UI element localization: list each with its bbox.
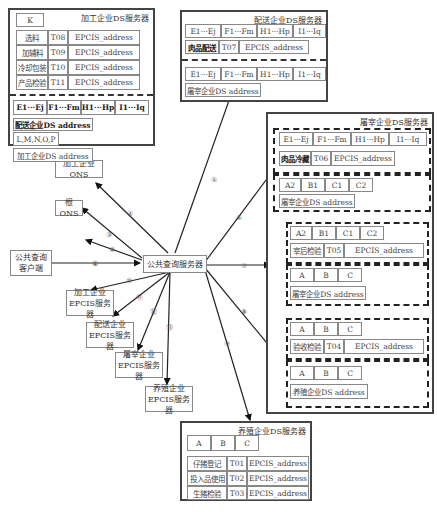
range-cell: F1···Fm	[221, 67, 257, 81]
sub-key-cell: L,M,N,O,P	[13, 132, 59, 146]
range-cell: H1···Hp	[81, 100, 115, 115]
key-cell: C1	[336, 226, 360, 240]
processing-ds-server[interactable]: 加工企业DS服务器 K 选料 T08 EPCIS_address 加辅料 T09…	[8, 8, 155, 146]
stage-code: T02	[227, 471, 247, 486]
farming-ds-address: 养殖企业DS address	[290, 384, 368, 399]
svg-text:⑬: ⑬	[166, 324, 173, 332]
svg-text:①: ①	[92, 260, 98, 268]
divider	[182, 59, 326, 61]
public-query-client[interactable]: 公共查询 客户端	[10, 250, 52, 276]
distribution-ds-server[interactable]: 配送企业DS服务器 E1···Ej F1···Fm H1···Hp I1···I…	[180, 10, 328, 102]
epcis-address: EPCIS_address	[331, 151, 395, 166]
range-cell: I1···Iq	[115, 100, 149, 115]
key-cell: A	[290, 366, 314, 380]
public-query-server[interactable]: 公共查询服务器	[143, 255, 207, 273]
stage-code: T04	[324, 339, 344, 354]
epcis-line2: EPCIS服务器	[67, 298, 113, 320]
key-cell: B	[314, 322, 338, 336]
epcis-address: EPCIS_address	[68, 30, 140, 45]
range-cell: E1···Ej	[13, 100, 47, 115]
svg-text:⑪: ⑪	[136, 294, 143, 302]
stage-name: 宰后检验	[290, 243, 324, 258]
slaughter-ds-title: 屠宰企业DS服务器	[360, 116, 428, 127]
svg-text:⑫: ⑫	[150, 308, 157, 316]
svg-text:⑧: ⑧	[241, 308, 247, 316]
client-line1: 公共查询	[15, 252, 47, 263]
slaughter-epcis-server[interactable]: 屠宰企业 EPCIS服务器	[115, 352, 163, 378]
stage-name: 加辅料	[16, 45, 48, 60]
processing-ons[interactable]: 加工企业ONS	[55, 160, 103, 178]
root-ons[interactable]: 根ONS	[55, 200, 83, 216]
svg-text:⑦: ⑦	[241, 262, 247, 270]
range-cell: E1···Ej	[279, 132, 313, 146]
range-cell: I1···Iq	[389, 132, 427, 146]
stage-name: 肉品配送	[185, 40, 219, 54]
stage-code: T09	[48, 45, 68, 60]
stage-name: 生猪检验	[187, 486, 227, 500]
key-cell: C	[338, 322, 362, 336]
epcis-address: EPCIS_address	[247, 486, 309, 500]
svg-text:⑤: ⑤	[211, 176, 217, 184]
svg-text:⑨: ⑨	[224, 340, 230, 348]
stage-code: T06	[311, 151, 331, 166]
farming-epcis-server[interactable]: 养殖企业 EPCIS服务器	[145, 386, 193, 412]
stage-code: T11	[48, 75, 68, 90]
distribution-ds-address: 配送企业DS address	[13, 118, 93, 131]
range-cell: H1···Hp	[257, 24, 293, 38]
range-cell: E1···Ej	[185, 24, 221, 38]
epcis-address: EPCIS_address	[68, 45, 140, 60]
epcis-address: EPCIS_address	[68, 60, 140, 75]
epcis-line1: 养殖企业	[153, 383, 185, 394]
epcis-line2: EPCIS服务器	[116, 360, 162, 382]
distribution-epcis-server[interactable]: 配送企业 EPCIS服务器	[86, 322, 134, 348]
key-cell: C	[338, 268, 362, 282]
processing-epcis-server[interactable]: 加工企业 EPCIS服务器	[66, 290, 114, 316]
stage-code: T01	[227, 456, 247, 471]
stage-name: 产品检验	[16, 75, 48, 90]
key-cell: B1	[312, 226, 336, 240]
epcis-address: EPCIS_address	[344, 339, 424, 354]
epcis-address: EPCIS_address	[247, 471, 309, 486]
stage-name: 仔猪登记	[187, 456, 227, 471]
key-cell: C	[338, 366, 362, 380]
processing-ds-address: 加工企业DS address	[13, 148, 93, 162]
key-cell: A	[187, 435, 211, 451]
processing-ds-title: 加工企业DS服务器	[81, 12, 149, 23]
key-cell: K	[16, 13, 44, 27]
key-cell: C	[235, 435, 259, 451]
range-cell: H1···Hp	[257, 67, 293, 81]
key-cell: A2	[279, 178, 301, 192]
slaughter-ds-address: 屠宰企业DS address	[279, 194, 355, 208]
svg-text:⑥: ⑥	[236, 214, 242, 222]
svg-text:⑩: ⑩	[126, 277, 132, 285]
public-query-server-label: 公共查询服务器	[147, 259, 203, 270]
range-cell: I1···Iq	[293, 67, 326, 81]
farming-ds-server[interactable]: 养殖企业DS服务器 A B C 仔猪登记 T01 EPCIS_address 投…	[180, 421, 312, 501]
epcis-address: EPCIS_address	[68, 75, 140, 90]
svg-text:②: ②	[109, 246, 115, 254]
stage-name: 验收检验	[290, 339, 324, 354]
epcis-line1: 屠宰企业	[123, 349, 155, 360]
stage-code: T05	[324, 243, 344, 258]
epcis-line1: 加工企业	[74, 287, 106, 298]
stage-code: T03	[227, 486, 247, 500]
stage-name: 投入品使用	[187, 471, 227, 486]
key-cell: A2	[290, 226, 312, 240]
stage-code: T10	[48, 60, 68, 75]
stage-name: 肉品冷藏	[279, 151, 311, 166]
range-cell: H1···Hp	[351, 132, 389, 146]
key-cell: B1	[301, 178, 325, 192]
svg-text:③: ③	[106, 231, 112, 239]
key-cell: C2	[349, 178, 373, 192]
slaughter-ds-address: 屠宰企业DS address	[185, 83, 261, 97]
stage-name: 冷却包装	[16, 60, 48, 75]
stage-name: 选料	[16, 30, 48, 45]
range-cell: F1···Fm	[313, 132, 351, 146]
key-cell: B	[314, 366, 338, 380]
epcis-line2: EPCIS服务器	[146, 394, 192, 416]
range-cell: F1···Fm	[47, 100, 81, 115]
root-ons-label: 根ONS	[56, 197, 82, 219]
key-cell: B	[314, 268, 338, 282]
epcis-line1: 配送企业	[94, 319, 126, 330]
range-cell: E1···Ej	[185, 67, 221, 81]
